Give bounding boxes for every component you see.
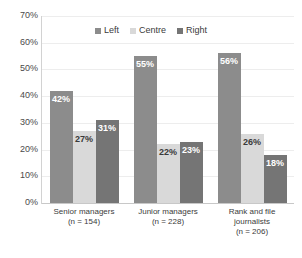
y-axis-tick-label: 40% [2, 91, 38, 100]
category-label-line: (n = 206) [210, 227, 294, 237]
bar-value-label: 22% [157, 147, 180, 157]
bar-right[interactable]: 31% [96, 120, 119, 203]
bar-left[interactable]: 42% [50, 91, 73, 203]
bar-centre[interactable]: 26% [241, 134, 264, 203]
grouped-bar-chart: 70%60%50%40%30%20%10%0% LeftCentreRight … [0, 0, 302, 258]
x-axis-category-label: Senior managers(n = 154) [42, 207, 126, 237]
bar-value-label: 27% [73, 134, 96, 144]
category-label-line: journalists [210, 217, 294, 227]
bar-value-label: 55% [134, 59, 157, 69]
category-label-line: Junior managers [126, 207, 210, 217]
bar-group: 56%26%18% [210, 16, 294, 203]
y-axis-tick-label: 30% [2, 118, 38, 127]
bar-value-label: 31% [96, 123, 119, 133]
bar-group: 42%27%31% [42, 16, 126, 203]
x-axis-category-label: Rank and filejournalists(n = 206) [210, 207, 294, 237]
y-axis-tick-label: 0% [2, 198, 38, 207]
bar-value-label: 42% [50, 94, 73, 104]
y-axis-tick-label: 20% [2, 145, 38, 154]
category-label-line: Senior managers [42, 207, 126, 217]
y-axis-tick-label: 70% [2, 11, 38, 20]
x-axis-line [42, 203, 294, 204]
bar-right[interactable]: 23% [180, 142, 203, 203]
bar-value-label: 18% [264, 158, 287, 168]
bar-centre[interactable]: 27% [73, 131, 96, 203]
bar-value-label: 56% [218, 56, 241, 66]
x-axis-categories: Senior managers(n = 154)Junior managers(… [42, 207, 294, 237]
bar-right[interactable]: 18% [264, 155, 287, 203]
x-axis-category-label: Junior managers(n = 228) [126, 207, 210, 237]
bar-value-label: 23% [180, 145, 203, 155]
bar-centre[interactable]: 22% [157, 144, 180, 203]
category-label-line: (n = 228) [126, 217, 210, 227]
category-label-line: Rank and file [210, 207, 294, 217]
y-axis-tick-label: 10% [2, 171, 38, 180]
category-label-line: (n = 154) [42, 217, 126, 227]
y-axis-tick-label: 60% [2, 38, 38, 47]
bar-left[interactable]: 56% [218, 53, 241, 203]
y-axis-tick-label: 50% [2, 64, 38, 73]
bar-groups: 42%27%31%55%22%23%56%26%18% [42, 16, 294, 203]
bar-group: 55%22%23% [126, 16, 210, 203]
y-axis: 70%60%50%40%30%20%10%0% [0, 16, 38, 204]
bar-value-label: 26% [241, 137, 264, 147]
bar-left[interactable]: 55% [134, 56, 157, 203]
